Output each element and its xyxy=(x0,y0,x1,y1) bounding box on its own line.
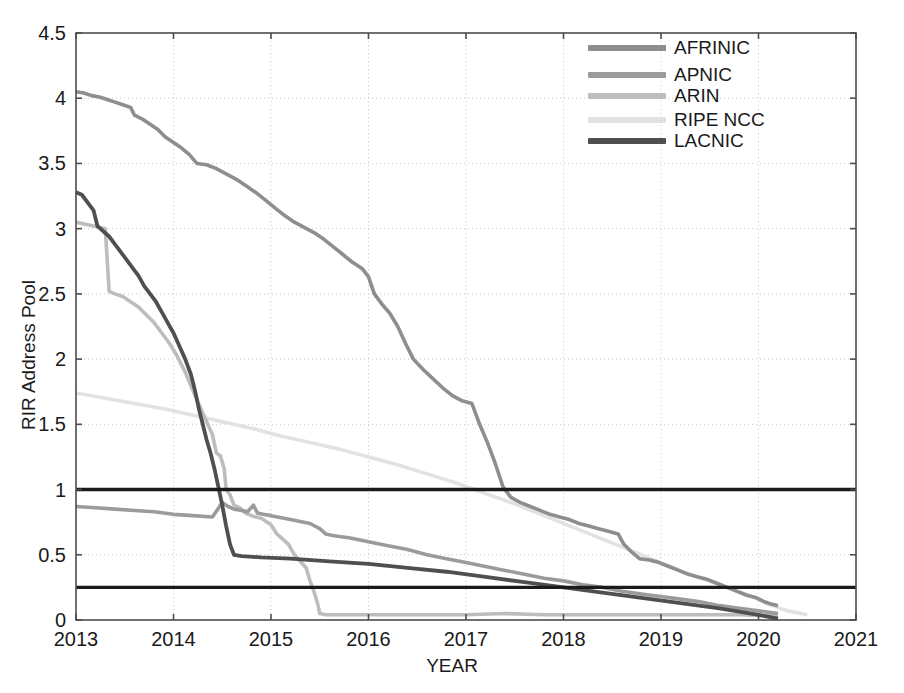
x-tick-label: 2020 xyxy=(736,628,781,651)
y-tick-label: 4.5 xyxy=(0,22,66,45)
legend-swatch-afrinic xyxy=(588,45,666,51)
x-tick-label: 2017 xyxy=(444,628,489,651)
y-tick-label: 2.5 xyxy=(0,282,66,305)
x-tick-label: 2014 xyxy=(151,628,196,651)
y-tick-label: 3 xyxy=(0,217,66,240)
x-axis-title: YEAR xyxy=(0,655,904,677)
legend-swatch-lacnic xyxy=(588,138,666,144)
legend-swatch-ripe-ncc xyxy=(588,117,666,123)
plot-canvas xyxy=(0,0,904,693)
y-tick-label: 3.5 xyxy=(0,152,66,175)
x-tick-label: 2021 xyxy=(834,628,879,651)
legend-label-lacnic: LACNIC xyxy=(674,130,744,152)
x-tick-label: 2013 xyxy=(54,628,99,651)
x-tick-label: 2018 xyxy=(541,628,586,651)
chart-page: RIR Address Pool YEAR 00.511.522.533.544… xyxy=(0,0,904,693)
y-tick-label: 2 xyxy=(0,348,66,371)
y-tick-label: 4 xyxy=(0,87,66,110)
y-tick-label: 1 xyxy=(0,478,66,501)
legend-swatch-apnic xyxy=(588,72,666,78)
x-tick-label: 2016 xyxy=(346,628,391,651)
legend-label-arin: ARIN xyxy=(674,85,719,107)
legend-label-afrinic: AFRINIC xyxy=(674,37,750,59)
x-tick-label: 2015 xyxy=(249,628,294,651)
legend-swatch-arin xyxy=(588,93,666,99)
y-tick-label: 0.5 xyxy=(0,543,66,566)
x-tick-label: 2019 xyxy=(639,628,684,651)
legend-label-ripe-ncc: RIPE NCC xyxy=(674,109,765,131)
rir-address-pool-line-chart: RIR Address Pool YEAR 00.511.522.533.544… xyxy=(0,0,904,693)
y-tick-label: 1.5 xyxy=(0,413,66,436)
legend-label-apnic: APNIC xyxy=(674,64,732,86)
